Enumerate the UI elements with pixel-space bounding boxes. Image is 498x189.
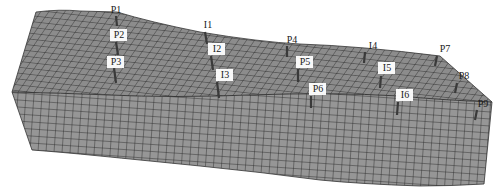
well-label: P7 — [440, 43, 451, 54]
well-label: I1 — [204, 19, 212, 30]
well-marker-icon — [397, 102, 398, 115]
well-marker-icon — [380, 76, 381, 88]
well-marker-icon — [116, 16, 117, 26]
well-label: I3 — [221, 69, 229, 80]
well-label: P5 — [300, 56, 311, 67]
well-label: I6 — [401, 89, 409, 100]
well-label: P4 — [287, 34, 298, 45]
well-label: I5 — [383, 62, 391, 73]
well-label: P2 — [114, 29, 125, 40]
well-label: I2 — [213, 43, 221, 54]
well-marker-icon — [364, 52, 365, 63]
well-label: P1 — [111, 4, 122, 15]
well-label: I4 — [369, 40, 377, 51]
well-label: P3 — [111, 56, 122, 67]
well-label: P9 — [478, 98, 489, 109]
well-label: P8 — [459, 70, 470, 81]
well-label: P6 — [313, 83, 324, 94]
reservoir-mesh-figure: P1P2P3I1I2I3P4P5P6I4I5I6P7P8P9 — [0, 0, 498, 189]
